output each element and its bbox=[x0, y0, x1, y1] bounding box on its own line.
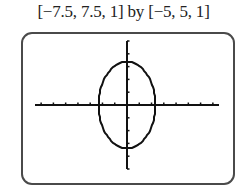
graph-plot bbox=[0, 0, 247, 191]
axes bbox=[35, 41, 219, 169]
